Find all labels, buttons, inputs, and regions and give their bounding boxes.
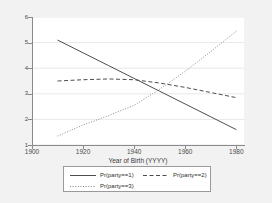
x-tick-label: 1960 xyxy=(170,148,200,156)
y-tick-text: 6 xyxy=(14,14,28,20)
legend-label-1: Pr(party==1) xyxy=(100,172,134,179)
x-tick-text: 1960 xyxy=(170,148,200,156)
chart-legend: Pr(party==1) Pr(party==2) Pr(party==3) xyxy=(63,166,211,192)
series-lines xyxy=(58,31,237,136)
legend-item-2: Pr(party==2) xyxy=(143,170,207,181)
y-tick-label: 6 xyxy=(14,14,28,20)
series-line-3 xyxy=(58,31,237,136)
y-tick-mark xyxy=(28,17,32,18)
series-line-2 xyxy=(58,79,237,98)
y-tick-label: 1 xyxy=(14,142,28,148)
y-tick-label: 4 xyxy=(14,65,28,71)
x-axis-line xyxy=(32,145,245,146)
y-tick-mark xyxy=(28,68,32,69)
x-tick-label: 1940 xyxy=(119,148,149,156)
x-tick-label: 1920 xyxy=(68,148,98,156)
y-tick-label: 5 xyxy=(14,39,28,45)
gridlines xyxy=(32,17,244,145)
y-tick-mark xyxy=(28,119,32,120)
y-axis-line xyxy=(32,17,33,146)
y-tick-text: 2 xyxy=(14,116,28,122)
legend-label-3: Pr(party==3) xyxy=(100,183,134,190)
y-tick-text: 3 xyxy=(14,90,28,96)
x-tick-mark xyxy=(236,145,237,149)
legend-key-dotted-icon xyxy=(70,183,96,190)
legend-key-dashed-icon xyxy=(143,172,169,179)
legend-item-1: Pr(party==1) xyxy=(70,170,134,181)
x-tick-mark xyxy=(185,145,186,149)
legend-key-solid-icon xyxy=(70,172,96,179)
x-tick-text: 1980 xyxy=(221,148,251,156)
y-tick-text: 1 xyxy=(14,142,28,148)
x-tick-label: 1980 xyxy=(221,148,251,156)
legend-item-3: Pr(party==3) xyxy=(70,181,134,192)
y-tick-mark xyxy=(28,94,32,95)
y-tick-mark xyxy=(28,43,32,44)
x-tick-text: 1940 xyxy=(119,148,149,156)
x-tick-mark xyxy=(32,145,33,149)
x-tick-mark xyxy=(83,145,84,149)
series-line-1 xyxy=(58,40,237,130)
x-tick-mark xyxy=(134,145,135,149)
x-axis-title: Year of Birth (YYYY) xyxy=(32,157,244,164)
y-tick-text: 5 xyxy=(14,39,28,45)
x-tick-text: 1920 xyxy=(68,148,98,156)
y-tick-label: 3 xyxy=(14,90,28,96)
x-tick-text: 1900 xyxy=(17,148,47,156)
y-tick-text: 4 xyxy=(14,65,28,71)
plot-svg xyxy=(32,17,244,145)
chart-figure: 654321 19001920194019601980 Year of Birt… xyxy=(0,0,272,203)
x-tick-label: 1900 xyxy=(17,148,47,156)
plot-area xyxy=(32,17,244,145)
y-tick-label: 2 xyxy=(14,116,28,122)
legend-label-2: Pr(party==2) xyxy=(173,172,207,179)
